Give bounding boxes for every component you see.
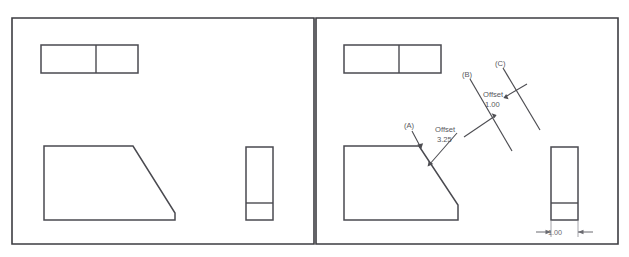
offset-a-value: 3.25 [437,135,452,144]
label-a-text: (A) [404,121,415,130]
right-top-split-rectangle [344,45,441,73]
offset-a-callout: Offset 3.25 [428,125,457,167]
width-dimension-group: 1.00 [536,221,593,237]
offset-b-value: 1.00 [485,100,500,109]
label-c-group: (C) [495,59,506,68]
left-tall-side-rectangle [246,147,273,220]
drawing-canvas: (A) (B) (C) Offset 3.25 Offset [0,0,629,257]
technical-drawing-svg: (A) (B) (C) Offset 3.25 Offset [0,0,629,257]
label-b-text: (B) [462,70,473,79]
width-dimension-text: 1.00 [548,228,562,237]
right-chamfered-block-profile [344,146,458,220]
offset-a-word: Offset [435,125,456,134]
label-a-group: (A) [404,121,423,150]
label-b-group: (B) [462,70,473,79]
offset-line-c [503,68,540,130]
left-top-split-rectangle [41,45,138,73]
right-panel-content: (A) (B) (C) Offset 3.25 Offset [344,45,593,237]
right-tall-side-rectangle [551,147,578,220]
left-panel-content [41,45,273,220]
left-chamfered-block-profile [44,146,175,220]
offset-b-word: Offset [483,90,504,99]
label-c-text: (C) [495,59,506,68]
